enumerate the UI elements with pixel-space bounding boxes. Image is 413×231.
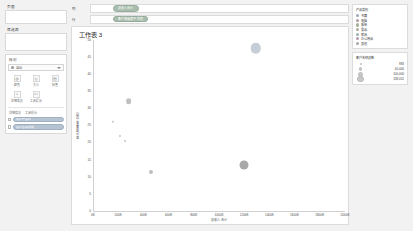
- x-axis-title: 总收入合计: [93, 218, 345, 222]
- scatter-point[interactable]: [126, 98, 132, 104]
- size-icon: ◎: [33, 75, 40, 82]
- color-swatch-icon: [356, 37, 359, 40]
- detail-column-header: 详细信息: [9, 111, 21, 115]
- scatter-point[interactable]: [251, 43, 262, 54]
- checkbox-icon[interactable]: [8, 125, 11, 128]
- pages-shelf[interactable]: [5, 10, 67, 24]
- marks-pill-product-line[interactable]: 用户产品线: [13, 117, 64, 123]
- legend-panel: 产品类别 书籍电脑服装食品家具办公用品其他 客户名称总数 98340,00010…: [352, 4, 408, 225]
- size-legend: 客户名称总数 98340,000100,000138,012: [352, 52, 408, 85]
- columns-shelf-row: 列 总收入合计: [71, 4, 349, 13]
- scatter-canvas[interactable]: [93, 40, 345, 212]
- color-legend-label: 其他: [361, 41, 367, 46]
- shelves: 列 总收入合计 行 客户满意度平均值: [71, 4, 349, 24]
- mark-button-detail[interactable]: ▵ 详细信息: [8, 90, 26, 104]
- color-swatch-icon: [356, 42, 359, 45]
- y-tick-label: 40: [88, 72, 91, 76]
- x-tick-label: 600K: [165, 213, 172, 217]
- x-tick-label: 1400K: [265, 213, 274, 217]
- color-legend-items: 书籍电脑服装食品家具办公用品其他: [356, 14, 405, 46]
- color-legend-title: 产品类别: [356, 7, 405, 12]
- mark-button-color[interactable]: ◍ 颜色: [8, 74, 26, 88]
- viz-area: 列 总收入合计 行 客户满意度平均值 工作表 3 客户满意度平均值 051015…: [71, 4, 349, 225]
- x-axis: 0K200K400K600K800K1000K1200K1400K1600K18…: [93, 211, 345, 222]
- shelf-pill-rows[interactable]: 客户满意度平均值: [113, 16, 148, 22]
- plot-area: 客户满意度平均值 05101520253035404550: [75, 40, 345, 212]
- scatter-point[interactable]: [239, 160, 248, 169]
- marks-pill-customer-count[interactable]: 客户名称总数: [13, 124, 64, 130]
- label-icon: ▤: [52, 75, 59, 82]
- y-tick-label: 25: [88, 123, 91, 127]
- left-sidebar: 页面 筛选器 标记 自动 ◍ 颜色 ◎: [5, 4, 67, 225]
- x-tick-label: 200K: [115, 213, 122, 217]
- y-tick-label: 10: [88, 175, 91, 179]
- x-tick-label: 400K: [140, 213, 147, 217]
- size-legend-items: 98340,000100,000138,012: [356, 62, 405, 82]
- size-swatch-icon: [357, 76, 363, 82]
- mark-button-size-label: 大小: [33, 83, 39, 87]
- columns-shelf[interactable]: 总收入合计: [90, 4, 349, 13]
- size-swatch-icon: [360, 63, 362, 65]
- x-tick-label: 0K: [91, 213, 95, 217]
- scatter-point[interactable]: [124, 140, 126, 142]
- pages-section: 页面: [5, 4, 67, 24]
- x-tick-label: 2000K: [341, 213, 350, 217]
- marks-divider: [8, 107, 64, 108]
- mark-buttons-grid: ◍ 颜色 ◎ 大小 ▤ 标签 ▵ 详细信息 ▭ 工具提示: [8, 73, 64, 104]
- mark-button-detail-label: 详细信息: [11, 99, 23, 103]
- x-tick-label: 1600K: [290, 213, 299, 217]
- columns-shelf-label: 列: [71, 6, 87, 11]
- size-swatch-cell: [356, 63, 365, 65]
- y-tick-label: 5: [89, 192, 91, 196]
- tooltip-icon: ▭: [33, 91, 40, 98]
- y-tick-label: 35: [88, 89, 91, 93]
- size-legend-value: 138,012: [367, 77, 405, 81]
- y-axis-ticks: 05101520253035404550: [80, 40, 93, 212]
- y-tick-label: 50: [88, 38, 91, 42]
- y-tick-label: 20: [88, 140, 91, 144]
- chart-card: 工作表 3 客户满意度平均值 05101520253035404550 0K20…: [71, 26, 349, 226]
- marks-pill-headers: 详细信息 工具提示: [8, 111, 64, 115]
- x-tick-label: 1000K: [215, 213, 224, 217]
- tableau-workspace: 页面 筛选器 标记 自动 ◍ 颜色 ◎: [0, 0, 413, 231]
- color-legend: 产品类别 书籍电脑服装食品家具办公用品其他: [352, 4, 408, 49]
- mark-button-tooltip-label: 工具提示: [30, 99, 42, 103]
- mark-button-tooltip[interactable]: ▭ 工具提示: [27, 90, 45, 104]
- y-tick-label: 30: [88, 106, 91, 110]
- y-tick-label: 45: [88, 55, 91, 59]
- color-icon: ◍: [14, 75, 21, 82]
- shelf-pill-columns[interactable]: 总收入合计: [113, 5, 139, 11]
- circle-icon: [11, 66, 14, 69]
- marks-pill-row[interactable]: 用户产品线: [8, 117, 64, 123]
- x-axis-ticks: 0K200K400K600K800K1000K1200K1400K1600K18…: [93, 212, 345, 217]
- color-legend-item[interactable]: 其他: [356, 41, 405, 46]
- scatter-point[interactable]: [149, 170, 153, 174]
- scatter-point[interactable]: [119, 134, 121, 136]
- detail-icon: ▵: [14, 91, 21, 98]
- color-swatch-icon: [356, 23, 359, 26]
- size-legend-item[interactable]: 138,012: [356, 77, 405, 82]
- rows-shelf[interactable]: 客户满意度平均值: [90, 15, 349, 24]
- color-swatch-icon: [356, 33, 359, 36]
- rows-shelf-row: 行 客户满意度平均值: [71, 15, 349, 24]
- x-tick-label: 800K: [190, 213, 197, 217]
- checkbox-icon[interactable]: [8, 118, 11, 121]
- scatter-point[interactable]: [112, 121, 114, 123]
- filters-shelf[interactable]: [5, 33, 67, 51]
- size-legend-value: 983: [367, 62, 405, 66]
- size-legend-value: 100,000: [367, 72, 405, 76]
- color-swatch-icon: [356, 19, 359, 22]
- marks-pill-row[interactable]: 客户名称总数: [8, 124, 64, 130]
- color-swatch-icon: [356, 14, 359, 17]
- mark-button-size[interactable]: ◎ 大小: [27, 74, 45, 88]
- mark-type-value-group: 自动: [11, 65, 22, 70]
- mark-button-label[interactable]: ▤ 标签: [46, 74, 64, 88]
- color-swatch-icon: [356, 28, 359, 31]
- rows-shelf-label: 行: [71, 17, 87, 22]
- marks-card: 标记 自动 ◍ 颜色 ◎ 大小 ▤ 标签: [5, 54, 67, 134]
- tooltip-column-header: 工具提示: [25, 111, 37, 115]
- mark-button-color-label: 颜色: [14, 83, 20, 87]
- mark-type-select[interactable]: 自动: [8, 64, 64, 71]
- marks-label: 标记: [8, 57, 64, 62]
- size-swatch-cell: [356, 76, 365, 82]
